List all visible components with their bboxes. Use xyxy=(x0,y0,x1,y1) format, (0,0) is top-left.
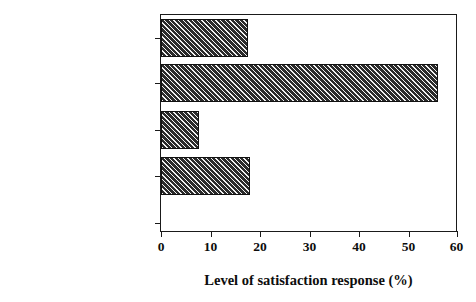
bar-somewhat-dissatisfied xyxy=(161,157,250,195)
x-tick xyxy=(359,231,360,237)
x-tick xyxy=(457,231,458,237)
x-tick xyxy=(409,231,410,237)
x-tick-label-0: 0 xyxy=(158,240,165,254)
x-tick-label-4: 40 xyxy=(352,240,366,254)
y-tick xyxy=(155,223,161,224)
x-tick xyxy=(161,231,162,237)
bar-very-satisfied xyxy=(161,19,248,57)
bar-somewhat-satisfied xyxy=(161,64,438,102)
x-tick-label-1: 10 xyxy=(204,240,218,254)
x-tick-label-6: 60 xyxy=(450,240,464,254)
bar-chart: Very satisfied Somewhat satisfied Neutra… xyxy=(0,0,476,302)
x-tick-label-5: 50 xyxy=(402,240,416,254)
x-tick-label-3: 30 xyxy=(303,240,317,254)
x-tick xyxy=(310,231,311,237)
plot-area: Very satisfied Somewhat satisfied Neutra… xyxy=(160,14,457,232)
bar-neutral xyxy=(161,111,199,149)
x-axis-title: Level of satisfaction response (%) xyxy=(160,272,457,289)
x-tick xyxy=(260,231,261,237)
x-tick xyxy=(211,231,212,237)
x-tick-label-2: 20 xyxy=(253,240,267,254)
